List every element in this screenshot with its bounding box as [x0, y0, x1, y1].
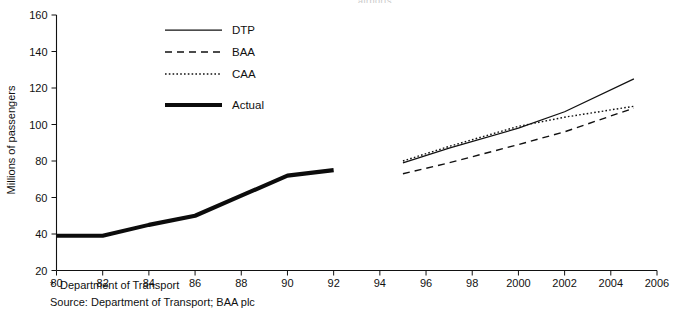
x-tick-label: 2004 [599, 277, 623, 289]
y-tick-label: 160 [29, 9, 47, 21]
x-tick-label: 86 [189, 277, 201, 289]
y-tick-label: 40 [35, 228, 47, 240]
legend-label-caa: CAA [232, 68, 256, 80]
y-tick-label: 100 [29, 119, 47, 131]
x-tick-label: 94 [374, 277, 386, 289]
x-tick-label: 2000 [506, 277, 530, 289]
x-tick-label: 90 [281, 277, 293, 289]
y-tick-label: 60 [35, 192, 47, 204]
y-tick-label: 80 [35, 155, 47, 167]
x-tick-label: 2002 [552, 277, 576, 289]
source-text: Source: Department of Transport; BAA plc [50, 296, 255, 308]
legend-label-dtp: DTP [232, 24, 255, 36]
footnote-text: Department of Transport [60, 279, 179, 291]
y-tick-label: 20 [35, 265, 47, 277]
y-tick-label: 140 [29, 46, 47, 58]
series-line-caa [403, 106, 634, 161]
x-tick-label: 88 [235, 277, 247, 289]
x-tick-label: 92 [328, 277, 340, 289]
chart-legend: DTP BAA CAA Actual [165, 24, 264, 111]
chart-figure: airports 20406080100120140160 8082848688… [0, 0, 688, 313]
series-line-dtp [403, 79, 634, 163]
legend-label-baa: BAA [232, 46, 255, 58]
series-line-actual [57, 170, 334, 236]
y-axis-title: Millions of passengers [5, 85, 17, 194]
x-tick-label: 96 [420, 277, 432, 289]
series-line-baa [403, 108, 634, 174]
footnote-marker: * [50, 279, 55, 291]
series-lines [57, 79, 634, 236]
y-axis-ticks: 20406080100120140160 [29, 9, 56, 277]
y-tick-label: 120 [29, 82, 47, 94]
chart-canvas: 20406080100120140160 8082848688909294969… [0, 0, 688, 313]
x-tick-label: 98 [466, 277, 478, 289]
x-tick-label: 2006 [645, 277, 669, 289]
legend-label-actual: Actual [232, 99, 264, 111]
